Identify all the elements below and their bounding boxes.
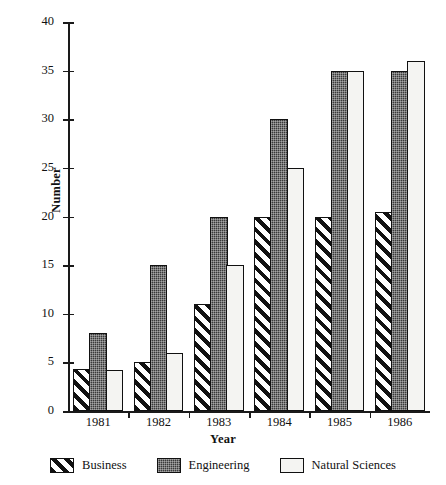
y-axis-tick-label: 40 [42,14,55,29]
bar-group-1984 [254,19,304,411]
bar-business-1982 [134,362,152,411]
bar-group-1986 [375,19,425,411]
chart-legend: BusinessEngineeringNatural Sciences [0,452,446,478]
bar-natural-sciences-1981 [106,370,124,411]
bar-group-1982 [134,19,184,411]
y-axis-tick-label: 5 [48,354,54,369]
bar-engineering-1985 [331,71,349,411]
bar-natural-sciences-1982 [166,353,184,411]
bar-business-1981 [73,369,91,411]
bar-engineering-1986 [391,71,409,411]
bar-chart: Number 0510152025303540 1981198219831984… [0,0,446,485]
bar-group-1981 [73,19,123,411]
legend-label: Natural Sciences [312,458,396,473]
bar-engineering-1984 [270,119,288,411]
bar-business-1984 [254,217,272,412]
x-axis-tick-labels: 198119821983198419851986 [68,414,430,432]
legend-swatch-engineering [157,458,181,473]
bar-engineering-1983 [210,217,228,412]
y-axis-tick-label: 0 [48,403,54,418]
y-axis-tick-label: 30 [42,111,55,126]
y-axis-tick-label: 15 [42,257,55,272]
bar-natural-sciences-1986 [407,61,425,411]
x-axis-title: Year [0,432,446,447]
y-axis-tick-label: 10 [42,306,55,321]
plot-area: 0510152025303540 [68,18,430,412]
bar-business-1986 [375,212,393,411]
legend-item-business[interactable]: Business [50,458,126,473]
x-axis-label-1981: 1981 [68,414,128,430]
legend-label: Engineering [189,458,250,473]
x-axis-label-1983: 1983 [189,414,249,430]
bar-natural-sciences-1984 [287,168,305,411]
legend-item-natural-sciences[interactable]: Natural Sciences [280,458,396,473]
bar-natural-sciences-1985 [347,71,365,411]
x-axis-label-1982: 1982 [128,414,188,430]
x-axis-label-1985: 1985 [309,414,369,430]
bar-business-1985 [315,217,333,412]
y-axis-title: Number [49,135,64,245]
y-axis-tick-label: 25 [42,160,55,175]
legend-swatch-natural-sciences [280,458,304,473]
bar-engineering-1981 [89,333,107,411]
bar-group-1983 [194,19,244,411]
x-axis-label-1986: 1986 [370,414,430,430]
legend-swatch-business [50,458,74,473]
bar-natural-sciences-1983 [226,265,244,411]
y-axis-tick-label: 20 [42,209,55,224]
x-axis-label-1984: 1984 [249,414,309,430]
y-axis-tick-label: 35 [42,63,55,78]
y-axis-tick: 0 [63,411,74,413]
bar-group-1985 [315,19,365,411]
bar-engineering-1982 [150,265,168,411]
bar-business-1983 [194,304,212,411]
legend-item-engineering[interactable]: Engineering [157,458,250,473]
legend-label: Business [82,458,126,473]
